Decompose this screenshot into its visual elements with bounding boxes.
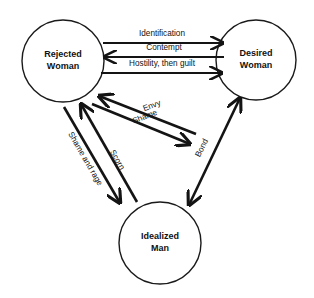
edge-label-bond: Bond [193,137,210,159]
edge-contempt: Contempt [104,43,224,57]
node-rejected-woman[interactable]: Rejected Woman [22,20,104,102]
node-desired-woman[interactable]: Desired Woman [216,20,296,100]
edge-label-contempt: Contempt [146,43,182,52]
diagram-canvas: Rejected Woman Desired Woman Idealized M… [0,0,314,298]
edge-hostility-then-guilt: Hostility, then guilt [101,59,222,73]
node-label-desired-woman-line1: Desired [239,48,272,58]
node-label-rejected-woman-line2: Woman [47,61,79,71]
edge-line-shame [92,104,190,144]
node-label-desired-woman-line2: Woman [240,60,272,70]
node-label-idealized-man-line1: Idealized [141,231,179,241]
node-label-idealized-man-line2: Man [151,243,169,253]
relationship-diagram: Rejected Woman Desired Woman Idealized M… [0,0,314,298]
edge-identification: Identification [103,29,223,43]
edge-label-shame-and-rage: Shame and rage [66,130,104,187]
edge-label-identification: Identification [139,29,185,38]
edge-shame: Shame [92,104,190,144]
edge-label-hostility-then-guilt: Hostility, then guilt [129,59,196,68]
node-label-rejected-woman-line1: Rejected [44,49,82,59]
node-idealized-man[interactable]: Idealized Man [119,202,201,284]
edge-bond: Bond [189,98,240,205]
edge-label-scorn: Scorn [108,148,127,171]
